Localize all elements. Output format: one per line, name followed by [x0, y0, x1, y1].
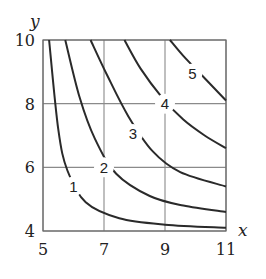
x-tick-label: 7 — [99, 240, 109, 259]
contour-label-5: 5 — [188, 65, 196, 82]
x-tick-label: 5 — [38, 240, 48, 259]
contour-line-2 — [65, 40, 226, 212]
contour-label-1: 1 — [69, 178, 77, 195]
contour-chart: 12345 5791146810 y x — [0, 0, 266, 279]
contour-labels: 12345 — [64, 63, 203, 196]
contour-label-2: 2 — [100, 159, 108, 176]
contour-label-3: 3 — [129, 125, 137, 142]
x-axis-label: x — [238, 220, 248, 240]
contour-label-4: 4 — [161, 95, 169, 112]
tick-labels: 5791146810 — [15, 31, 237, 259]
x-tick-label: 9 — [160, 240, 170, 259]
x-tick-label: 11 — [216, 240, 236, 259]
y-tick-label: 6 — [25, 158, 35, 177]
y-tick-label: 4 — [25, 222, 35, 241]
y-tick-label: 8 — [25, 95, 35, 114]
y-axis-label: y — [29, 11, 40, 31]
y-tick-label: 10 — [15, 31, 35, 50]
